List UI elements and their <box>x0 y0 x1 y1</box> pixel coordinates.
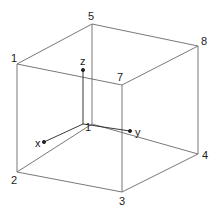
edge-2-hidden <box>17 124 92 172</box>
x-axis-tip-dot <box>42 140 45 143</box>
vertex-label-4: 4 <box>202 149 208 161</box>
y-axis-label: y <box>135 126 141 138</box>
vertex-label-7: 7 <box>117 71 123 83</box>
x-axis-label: x <box>35 137 41 149</box>
z-axis-tip-dot <box>81 68 84 71</box>
edge-2-3 <box>17 172 122 192</box>
cube-diagram: 12345781xyz <box>0 0 218 216</box>
cube-edges <box>17 24 198 192</box>
vertex-label-5: 5 <box>88 10 94 22</box>
origin-label: 1 <box>85 121 91 133</box>
edge-3-4 <box>122 154 198 192</box>
edge-7-1 <box>17 64 122 85</box>
vertex-label-1: 1 <box>11 52 17 64</box>
y-axis-tip-dot <box>128 129 131 132</box>
z-axis-label: z <box>80 55 86 67</box>
vertex-label-3: 3 <box>119 195 125 207</box>
edge-8-7 <box>122 46 198 85</box>
vertex-label-8: 8 <box>201 35 207 47</box>
vertex-labels: 12345781xyz <box>11 10 208 207</box>
edge-5-8 <box>92 24 198 46</box>
cube-svg: 12345781xyz <box>0 0 218 216</box>
edge-4-hidden <box>92 124 198 154</box>
vertex-label-2: 2 <box>11 174 17 186</box>
